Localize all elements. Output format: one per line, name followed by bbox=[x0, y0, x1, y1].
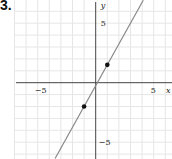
data-point bbox=[105, 63, 110, 68]
y-axis-label: y bbox=[100, 1, 106, 10]
grid-lines bbox=[14, 0, 172, 159]
x-tick-label: 5 bbox=[151, 86, 156, 95]
x-tick-label: −5 bbox=[35, 86, 47, 95]
data-point bbox=[82, 104, 87, 109]
coordinate-plane: −555−5 x y bbox=[0, 0, 172, 159]
x-axis-label: x bbox=[166, 86, 171, 95]
y-tick-label: 5 bbox=[101, 19, 106, 28]
y-tick-label: −5 bbox=[99, 138, 111, 147]
